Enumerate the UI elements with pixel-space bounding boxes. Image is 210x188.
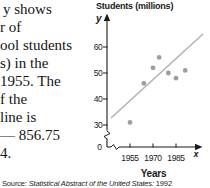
scatter-point (183, 68, 188, 73)
scatter-point (151, 65, 156, 70)
source-prefix: Source: (2, 179, 29, 188)
source-year: 1992 (156, 179, 172, 188)
y-tick-label: 40 (94, 94, 103, 104)
y-axis-symbol: y (95, 13, 102, 24)
x-axis-symbol: x (193, 149, 200, 159)
y-tick-label: 60 (94, 42, 103, 52)
source-title: Statistical Abstract of the United State… (29, 179, 156, 188)
scatter-point (166, 71, 171, 76)
x-axis-title: Years (107, 168, 200, 179)
y-tick-label: 50 (94, 68, 103, 78)
scatter-point (174, 76, 179, 81)
x-tick-label: 1970 (144, 153, 162, 163)
y-axis-arrow (104, 14, 110, 22)
x-tick-label: 1955 (121, 153, 139, 163)
scatter-point (157, 55, 162, 60)
scatter-point (128, 120, 133, 125)
chart-title: Students (millions) (96, 1, 173, 11)
trend-line (111, 34, 203, 118)
y-tick-label: 30 (94, 120, 103, 130)
origin-label: 0 (97, 142, 102, 152)
scatter-chart: 304050601955197019850yx (0, 0, 210, 188)
source-citation: Source: Statistical Abstract of the Unit… (2, 179, 172, 188)
scatter-point (141, 81, 146, 86)
textbook-figure: y showsr ofool studentss) in the1955. Th… (0, 0, 210, 188)
x-tick-label: 1985 (167, 153, 185, 163)
